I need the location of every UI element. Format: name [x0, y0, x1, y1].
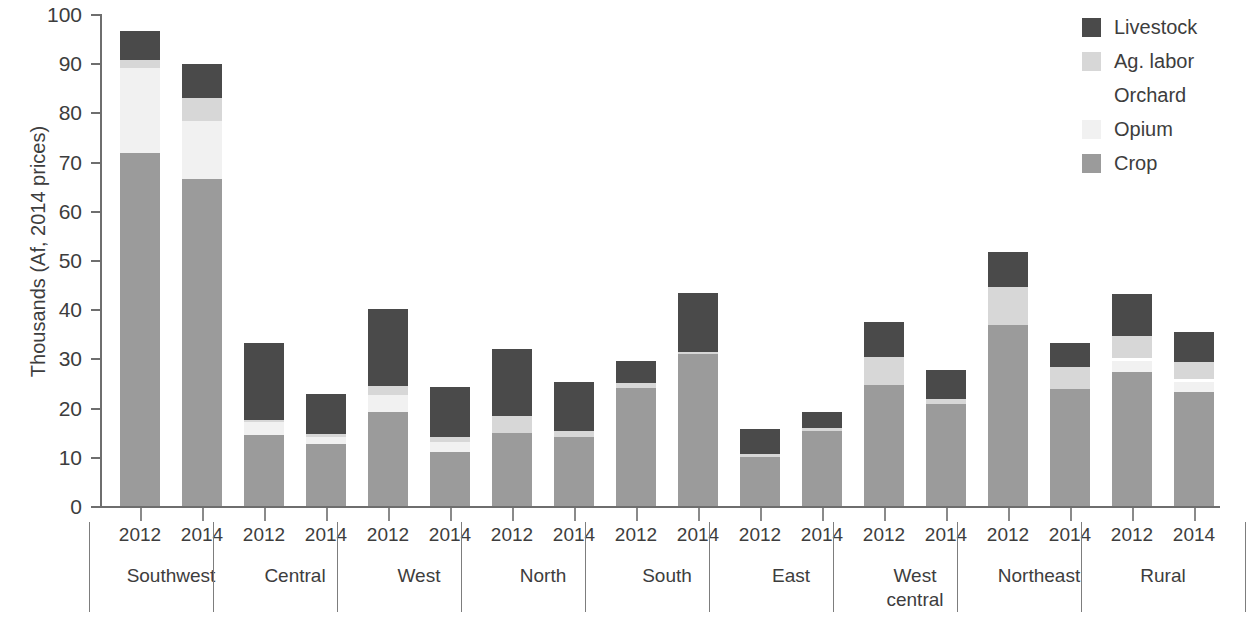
legend-label: Crop — [1114, 152, 1157, 175]
bar-segment-opium — [306, 437, 346, 444]
x-axis-tick — [636, 508, 638, 521]
legend-swatch-icon — [1082, 18, 1101, 37]
bar-segment-livestock — [926, 370, 966, 399]
bar-segment-orchard — [1174, 379, 1214, 382]
plot-area — [102, 15, 1247, 507]
bar-segment-ag-labor — [306, 434, 346, 437]
bar-segment-crop — [554, 437, 594, 507]
bar-segment-ag-labor — [1112, 336, 1152, 358]
bar-segment-livestock — [678, 293, 718, 352]
bar-segment-orchard — [1112, 358, 1152, 361]
x-axis-tick — [140, 508, 142, 521]
bar-segment-opium — [368, 395, 408, 412]
x-axis-tick — [760, 508, 762, 521]
x-axis-tick — [1008, 508, 1010, 521]
legend-item-ag-labor[interactable]: Ag. labor — [1082, 44, 1258, 78]
x-axis-group-separator — [585, 522, 586, 612]
y-axis-tick — [91, 408, 102, 410]
bar-segment-ag-labor — [182, 98, 222, 121]
bar-segment-ag-labor — [1174, 362, 1214, 378]
bar-segment-crop — [244, 435, 284, 507]
y-axis-tick-label: 40 — [22, 299, 82, 320]
legend-swatch-icon — [1082, 52, 1101, 71]
bar-segment-opium — [182, 121, 222, 179]
bar-segment-ag-labor — [988, 287, 1028, 326]
bar-segment-ag-labor — [554, 431, 594, 436]
y-axis-tick — [91, 112, 102, 114]
bar-segment-livestock — [492, 349, 532, 416]
legend-swatch-icon — [1082, 120, 1101, 139]
stacked-bar-chart: Thousands (Af, 2014 prices) 010203040506… — [0, 0, 1258, 617]
bar-segment-ag-labor — [492, 416, 532, 432]
bar-segment-ag-labor — [616, 383, 656, 388]
x-axis-group-separator — [1081, 522, 1082, 612]
x-axis-group-separator — [89, 522, 90, 612]
bar-segment-ag-labor — [678, 352, 718, 354]
bar-segment-crop — [182, 179, 222, 507]
bar-segment-ag-labor — [430, 437, 470, 442]
x-axis-year-label: 2014 — [1154, 524, 1234, 546]
bar-segment-livestock — [802, 412, 842, 428]
x-axis-tick — [264, 508, 266, 521]
y-axis-tick — [91, 260, 102, 262]
x-axis-group-separator — [213, 522, 214, 612]
bar-segment-livestock — [120, 31, 160, 61]
x-axis-tick — [574, 508, 576, 521]
x-axis-group-separator — [957, 522, 958, 612]
x-axis-labels: 2012201420122014201220142012201420122014… — [0, 508, 1258, 617]
x-axis-tick — [1132, 508, 1134, 521]
x-axis-tick — [202, 508, 204, 521]
y-axis-tick-label: 30 — [22, 348, 82, 369]
x-axis-tick — [884, 508, 886, 521]
legend-swatch-icon — [1082, 154, 1101, 173]
bar-segment-livestock — [1112, 294, 1152, 336]
bar-segment-livestock — [244, 343, 284, 420]
bar-segment-crop — [1174, 392, 1214, 507]
bar-segment-crop — [740, 457, 780, 507]
bar-segment-livestock — [306, 394, 346, 434]
legend-item-livestock[interactable]: Livestock — [1082, 10, 1258, 44]
bar-segment-opium — [120, 68, 160, 153]
bar-segment-livestock — [864, 322, 904, 357]
bar-segment-ag-labor — [864, 357, 904, 385]
bar-segment-crop — [430, 452, 470, 507]
x-axis-group-separator — [833, 522, 834, 612]
bar-segment-crop — [306, 444, 346, 507]
bar-segment-ag-labor — [802, 428, 842, 431]
x-axis-tick — [388, 508, 390, 521]
x-axis-group-separator — [1245, 522, 1246, 612]
legend-item-crop[interactable]: Crop — [1082, 146, 1258, 180]
bar-segment-ag-labor — [740, 454, 780, 456]
x-axis-group-separator — [461, 522, 462, 612]
bar-segment-crop — [368, 412, 408, 507]
bar-segment-opium — [1174, 382, 1214, 392]
x-axis-tick — [946, 508, 948, 521]
y-axis-tick-label: 70 — [22, 152, 82, 173]
x-axis-tick — [822, 508, 824, 521]
bar-segment-livestock — [182, 64, 222, 98]
x-axis-tick — [450, 508, 452, 521]
bar-segment-ag-labor — [926, 399, 966, 404]
chart-legend: LivestockAg. laborOrchardOpiumCrop — [1082, 10, 1258, 180]
legend-label: Ag. labor — [1114, 50, 1194, 73]
bar-segment-opium — [244, 422, 284, 435]
bar-segment-crop — [864, 385, 904, 508]
y-axis-tick-label: 80 — [22, 102, 82, 123]
bar-segment-crop — [926, 404, 966, 507]
legend-label: Livestock — [1114, 16, 1197, 39]
bar-segment-crop — [988, 325, 1028, 507]
bar-segment-ag-labor — [120, 60, 160, 68]
y-axis-tick — [91, 457, 102, 459]
bar-segment-opium — [1112, 361, 1152, 372]
bar-segment-livestock — [430, 387, 470, 437]
y-axis-tick — [91, 309, 102, 311]
legend-item-opium[interactable]: Opium — [1082, 112, 1258, 146]
legend-item-orchard[interactable]: Orchard — [1082, 78, 1258, 112]
legend-swatch-icon — [1082, 86, 1101, 105]
bar-segment-livestock — [740, 429, 780, 455]
x-axis-tick — [512, 508, 514, 521]
y-axis-tick — [91, 63, 102, 65]
x-axis-tick — [698, 508, 700, 521]
bar-segment-crop — [120, 153, 160, 507]
bar-segment-crop — [1050, 389, 1090, 507]
